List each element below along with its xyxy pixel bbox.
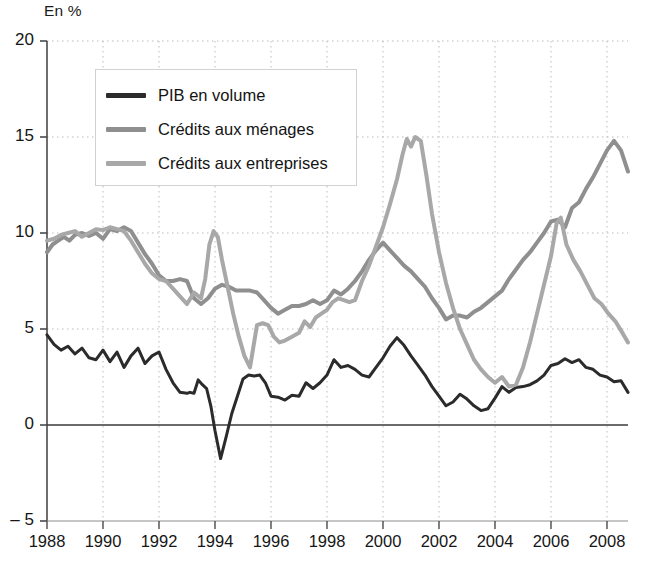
series-line-1: [47, 335, 628, 459]
x-tick-label: 2006: [525, 532, 577, 551]
y-tick-label: 15: [0, 126, 34, 146]
y-tick-label: 5: [0, 318, 34, 338]
x-tick-label: 2000: [357, 532, 409, 551]
y-tick-label: 20: [0, 30, 34, 50]
x-tick-label: 1994: [189, 532, 241, 551]
x-tick-label: 1998: [301, 532, 353, 551]
x-tick-label: 2002: [413, 532, 465, 551]
legend-swatch-line-icon: [106, 161, 146, 166]
x-tick-label: 2008: [581, 532, 633, 551]
x-tick-label: 2004: [469, 532, 521, 551]
chart-figure: En % – 505101520 19881990199219941996199…: [0, 0, 645, 572]
x-tick-label: 1992: [133, 532, 185, 551]
y-tick-label: 0: [0, 414, 34, 434]
legend-swatch-line-icon: [106, 127, 146, 132]
x-tick-label: 1988: [21, 532, 73, 551]
legend-item: Crédits aux ménages: [106, 114, 314, 144]
legend-item-label: Crédits aux entreprises: [158, 155, 328, 172]
x-tick-label: 1990: [77, 532, 129, 551]
legend-item: PIB en volume: [106, 80, 265, 110]
legend-swatch-line-icon: [106, 93, 146, 98]
x-tick-label: 1996: [245, 532, 297, 551]
legend-item: Crédits aux entreprises: [106, 148, 328, 178]
legend-item-label: Crédits aux ménages: [158, 121, 314, 138]
legend-item-label: PIB en volume: [158, 87, 265, 104]
y-tick-label: – 5: [0, 510, 34, 530]
y-tick-label: 10: [0, 222, 34, 242]
chart-legend: PIB en volumeCrédits aux ménagesCrédits …: [95, 69, 357, 186]
